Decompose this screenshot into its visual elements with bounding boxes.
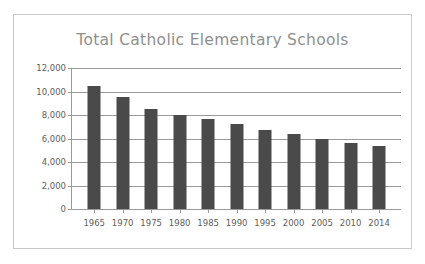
y-axis-tick-mark	[68, 139, 72, 140]
gridline	[72, 92, 401, 93]
bar-1980	[173, 115, 186, 209]
bar-1975	[145, 109, 158, 209]
x-axis-tick-label: 1990	[226, 218, 248, 228]
bar-2005	[316, 139, 329, 210]
x-axis-tick-mark	[379, 209, 380, 213]
x-axis-tick-label: 1970	[112, 218, 134, 228]
bar-1985	[202, 119, 215, 209]
y-axis-tick-label: 4,000	[42, 157, 66, 167]
bar-1965	[88, 86, 101, 209]
x-axis-tick-label: 1985	[197, 218, 219, 228]
x-axis-tick-mark	[208, 209, 209, 213]
x-axis-tick-mark	[180, 209, 181, 213]
x-axis-tick-mark	[294, 209, 295, 213]
x-axis-tick-mark	[151, 209, 152, 213]
gridline	[72, 68, 401, 69]
bar-1995	[259, 130, 272, 209]
y-axis-tick-label: 6,000	[42, 134, 66, 144]
bar-2010	[344, 143, 357, 209]
bar-2014	[373, 146, 386, 209]
x-axis-tick-label: 1975	[140, 218, 162, 228]
x-axis-tick-label: 2010	[340, 218, 362, 228]
y-axis-tick-mark	[68, 115, 72, 116]
bar-2000	[287, 134, 300, 209]
x-axis-tick-mark	[94, 209, 95, 213]
bar-1990	[230, 124, 243, 209]
x-axis-tick-label: 1965	[83, 218, 105, 228]
x-axis-tick-mark	[237, 209, 238, 213]
y-axis-tick-mark	[68, 162, 72, 163]
chart-figure: Total Catholic Elementary Schools 02,000…	[13, 14, 412, 249]
x-axis-tick-label: 1980	[169, 218, 191, 228]
x-axis-tick-mark	[265, 209, 266, 213]
x-axis-tick-label: 2014	[368, 218, 390, 228]
y-axis-tick-label: 12,000	[36, 63, 66, 73]
chart-title: Total Catholic Elementary Schools	[14, 31, 411, 49]
x-axis-tick-mark	[351, 209, 352, 213]
x-axis-tick-mark	[123, 209, 124, 213]
x-axis-tick-label: 2005	[311, 218, 333, 228]
y-axis-tick-label: 8,000	[42, 110, 66, 120]
y-axis-tick-mark	[68, 68, 72, 69]
x-axis-tick-mark	[322, 209, 323, 213]
y-axis-tick-label: 10,000	[36, 87, 66, 97]
y-axis-tick-label: 0	[61, 204, 66, 214]
x-axis-tick-label: 2000	[283, 218, 305, 228]
y-axis-tick-label: 2,000	[42, 181, 66, 191]
y-axis-tick-mark	[68, 186, 72, 187]
x-axis-tick-label: 1995	[254, 218, 276, 228]
plot-area: 02,0004,0006,0008,00010,00012,000 196519…	[72, 68, 401, 209]
y-axis-tick-mark	[68, 92, 72, 93]
y-axis-tick-mark	[68, 209, 72, 210]
bar-1970	[116, 97, 129, 209]
